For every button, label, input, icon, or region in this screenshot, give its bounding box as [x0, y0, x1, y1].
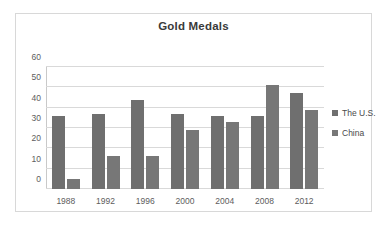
y-axis-tick-label: 0: [36, 174, 41, 184]
bar: [211, 116, 224, 189]
x-axis-tick-label: 2012: [284, 196, 324, 206]
bar: [67, 179, 80, 189]
bar-group: 1992: [86, 67, 126, 189]
plot-area: 0102030405060 19881992199620002004200820…: [46, 67, 324, 189]
x-axis-tick-label: 2004: [205, 196, 245, 206]
bar-group: 1996: [125, 67, 165, 189]
bar-group: 2000: [165, 67, 205, 189]
bar: [186, 130, 199, 189]
bar-group: 2008: [245, 67, 285, 189]
bar: [305, 110, 318, 189]
bar: [266, 85, 279, 189]
y-axis-tick-label: 20: [32, 133, 41, 143]
bar: [171, 114, 184, 189]
legend-label: The U.S.: [342, 108, 376, 118]
bar-group: 1988: [46, 67, 86, 189]
bar: [52, 116, 65, 189]
y-axis-tick-label: 40: [32, 93, 41, 103]
legend-item[interactable]: The U.S.: [332, 108, 376, 118]
legend-item[interactable]: China: [332, 128, 376, 138]
chart-legend: The U.S.China: [332, 108, 376, 148]
legend-swatch-icon: [332, 110, 338, 116]
y-axis-tick-label: 10: [32, 154, 41, 164]
bar: [131, 100, 144, 189]
x-axis-tick-label: 1992: [86, 196, 126, 206]
bars-layer: 1988199219962000200420082012: [46, 67, 324, 189]
bar: [226, 122, 239, 189]
y-axis-tick-label: 50: [32, 72, 41, 82]
x-axis-tick-label: 1996: [125, 196, 165, 206]
y-axis-tick-label: 30: [32, 113, 41, 123]
x-axis-tick-label: 2000: [165, 196, 205, 206]
y-axis-tick-label: 60: [32, 52, 41, 62]
legend-label: China: [342, 128, 364, 138]
bar: [107, 156, 120, 189]
chart-title: Gold Medals: [16, 20, 371, 32]
bar: [290, 93, 303, 189]
bar: [251, 116, 264, 189]
bar-group: 2004: [205, 67, 245, 189]
bar: [146, 156, 159, 189]
bar: [92, 114, 105, 189]
x-axis-tick-label: 1988: [46, 196, 86, 206]
legend-swatch-icon: [332, 130, 338, 136]
chart-container: Gold Medals 0102030405060 19881992199620…: [15, 13, 372, 212]
x-axis-tick-label: 2008: [245, 196, 285, 206]
bar-group: 2012: [284, 67, 324, 189]
